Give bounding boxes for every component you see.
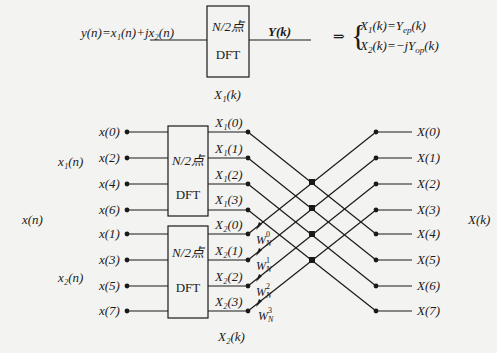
dft-box-2-line1: N/2点 — [168, 242, 208, 261]
intermediate-label: X₂(0) — [215, 218, 243, 232]
intermediate-label: X₁(1) — [215, 142, 243, 156]
x1-k-label: X₁(k) — [214, 88, 241, 102]
x-n-label: x(n) — [22, 213, 43, 227]
implies-arrow: ⇒ — [333, 30, 345, 44]
twiddle-factor-2: W2N — [256, 284, 272, 298]
output-label: X(5) — [417, 253, 440, 267]
input-label: x(1) — [99, 227, 120, 241]
output-label: X(6) — [417, 279, 440, 293]
input-label: x(7) — [99, 304, 120, 318]
x2-k-label: X₂(k) — [218, 330, 245, 344]
x-k-label: X(k) — [468, 213, 490, 227]
dft-box-1-line2: DFT — [168, 187, 208, 203]
input-label: x(6) — [99, 203, 120, 217]
x2-n-label: x₂(n) — [58, 271, 83, 285]
output-label: X(1) — [417, 151, 440, 165]
output-label: X(3) — [417, 203, 440, 217]
intermediate-label: X₁(3) — [215, 193, 243, 207]
result-line-2: X2(k)=−jYop(k) — [360, 39, 439, 53]
output-label: X(2) — [417, 177, 440, 191]
input-label: x(4) — [99, 177, 120, 191]
output-label: X(7) — [417, 304, 440, 318]
x1-n-label: x₁(n) — [58, 155, 83, 169]
intermediate-label: X₂(1) — [215, 244, 243, 258]
output-label: X(4) — [417, 227, 440, 241]
y-k-label: Y(k) — [268, 25, 291, 39]
intermediate-label: X₂(3) — [215, 295, 243, 309]
twiddle-factor-3: W3N — [258, 308, 274, 322]
equation-lhs: y(n)=x₁(n)+jx₂(n) — [81, 26, 174, 40]
input-label: x(2) — [99, 151, 120, 165]
result-line-1: X1(k)=Yep(k) — [360, 19, 426, 33]
output-label: X(0) — [417, 125, 440, 139]
input-label: x(5) — [99, 279, 120, 293]
twiddle-factor-1: W1N — [256, 258, 272, 272]
dft-box-1-line1: N/2点 — [168, 150, 208, 169]
input-label: x(0) — [99, 125, 120, 139]
intermediate-label: X₂(2) — [215, 270, 243, 284]
intermediate-label: X₁(2) — [215, 168, 243, 182]
intermediate-label: X₁(0) — [215, 116, 243, 130]
dft-box-2-line2: DFT — [168, 280, 208, 296]
fft-diagram: y(n)=x₁(n)+jx₂(n) N/2点 DFT Y(k) X₁(k) ⇒ … — [0, 0, 497, 353]
input-label: x(3) — [99, 253, 120, 267]
top-dft-box-line2: DFT — [207, 47, 249, 63]
twiddle-factor-0: W0N — [256, 232, 272, 246]
top-dft-box-line1: N/2点 — [207, 16, 249, 35]
